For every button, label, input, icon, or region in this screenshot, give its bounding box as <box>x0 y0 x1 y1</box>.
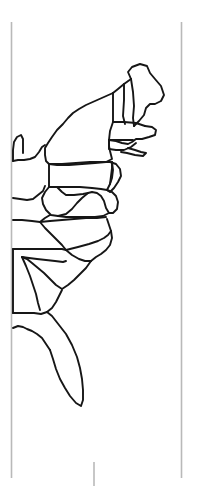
boundary-nh-vt-north <box>113 79 131 93</box>
boundary-nc-sc-border <box>66 250 91 261</box>
boundary-pa-outline <box>49 162 112 190</box>
boundary-ny-main <box>45 93 113 165</box>
state-boundary-lines <box>13 64 164 406</box>
boundary-ma-north <box>113 122 145 126</box>
map-page: Eastern United States <box>0 0 202 486</box>
boundary-oh-west <box>13 145 45 161</box>
boundary-ky-tn-border <box>13 220 40 222</box>
boundary-tn-south <box>13 249 66 250</box>
boundary-nc-coast <box>91 231 112 261</box>
boundary-fl-panhandle <box>13 326 50 350</box>
boundary-oh-michigan <box>13 135 23 161</box>
boundary-md-de-bay <box>88 190 118 213</box>
boundary-nh-me-divide <box>131 79 134 126</box>
boundary-tn-nc-border <box>40 222 66 250</box>
boundary-nc-outline <box>66 219 111 250</box>
boundary-ny-hudson-east <box>109 122 113 140</box>
boundary-ky-oh-river <box>13 186 45 200</box>
boundary-vt-nh-divide <box>123 84 125 124</box>
boundary-ga-al-border <box>22 257 40 310</box>
boundary-wv-outline <box>42 187 88 216</box>
page-crop-guides <box>12 22 182 486</box>
eastern-us-map-canvas <box>0 0 202 486</box>
boundary-ma-coast <box>109 126 156 144</box>
boundary-fl-peninsula <box>47 312 83 406</box>
